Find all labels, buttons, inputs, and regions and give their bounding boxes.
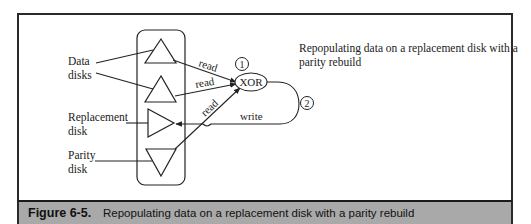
svg-text:2: 2: [305, 98, 310, 109]
parity-disk-icon: [146, 149, 176, 176]
data-disks-label: Data: [68, 55, 90, 67]
disk-array-enclosure: [137, 30, 185, 185]
read-label-1: read: [197, 56, 219, 73]
figure-caption-bar: Figure 6-5. Repopulating data on a repla…: [17, 200, 513, 224]
diagram-description: Repopulating data on a replacement disk …: [299, 41, 529, 69]
xor-label: XOR: [239, 76, 263, 88]
parity-disk-label: Parity: [68, 149, 96, 162]
write-label: write: [240, 110, 263, 122]
svg-text:disk: disk: [68, 163, 87, 175]
figure-caption: Repopulating data on a replacement disk …: [103, 207, 414, 219]
data-disk-2-icon: [145, 76, 176, 102]
svg-text:disks: disks: [68, 69, 92, 81]
raid-rebuild-diagram: Data disks Replacement disk Parity disk …: [0, 0, 531, 224]
write-arrow: [176, 82, 299, 126]
read-label-3: read: [198, 96, 220, 118]
replacement-disk-icon: [148, 109, 174, 137]
figure-number: Figure 6-5.: [28, 206, 103, 220]
replacement-disk-label: Replacement: [68, 111, 129, 124]
svg-text:disk: disk: [68, 125, 87, 137]
read-label-2: read: [194, 75, 215, 90]
svg-text:1: 1: [240, 59, 245, 70]
